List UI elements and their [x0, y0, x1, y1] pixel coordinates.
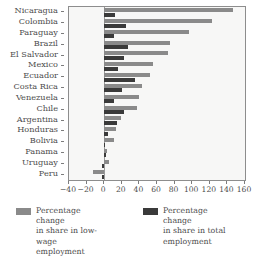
x-tick-mark — [174, 181, 175, 184]
y-tick-mark — [61, 174, 64, 175]
y-label-chile: Chile — [36, 104, 58, 113]
legend-label-low-wage: Percentage change in share in low-wage e… — [36, 206, 110, 257]
x-tick-label-40: 40 — [134, 185, 144, 194]
y-tick-mark — [61, 33, 64, 34]
x-tick-label-neg40: −40 — [60, 185, 76, 194]
y-label-paraguay: Paraguay — [19, 28, 58, 37]
y-label-bolivia: Bolivia — [30, 136, 58, 145]
y-label-mexico: Mexico — [28, 60, 58, 69]
bar-honduras-low-wage — [104, 127, 115, 131]
y-tick-mark — [61, 44, 64, 45]
legend-label-total-line1: Percentage change — [163, 206, 208, 225]
bar-paraguay-low-wage — [104, 30, 188, 34]
bar-argentina-total — [104, 121, 117, 125]
legend-label-total-line2: in share in total — [163, 226, 226, 235]
bar-mexico-total — [104, 67, 118, 71]
y-tick-mark — [61, 76, 64, 77]
y-tick-mark — [61, 141, 64, 142]
x-tick-mark — [103, 181, 104, 184]
legend-swatch-total-icon — [143, 208, 158, 215]
x-tick-mark — [138, 181, 139, 184]
x-tick-mark — [86, 181, 87, 184]
bar-colombia-total — [104, 24, 126, 28]
x-tick-mark — [244, 181, 245, 184]
y-tick-mark — [61, 109, 64, 110]
bar-uruguay-low-wage — [104, 160, 109, 164]
y-label-panama: Panama — [25, 147, 58, 156]
bar-mexico-low-wage — [104, 62, 153, 66]
x-tick-label-60: 60 — [151, 185, 161, 194]
bar-panama-total — [104, 153, 106, 157]
bar-nicaragua-low-wage — [104, 8, 232, 12]
y-tick-mark — [61, 120, 64, 121]
bar-honduras-total — [104, 132, 108, 136]
x-tick-mark — [191, 181, 192, 184]
y-label-colombia: Colombia — [19, 17, 58, 26]
legend-entry-total: Percentage change in share in total empl… — [143, 206, 237, 247]
bar-nicaragua-total — [104, 13, 115, 17]
x-tick-mark — [121, 181, 122, 184]
y-axis-category-labels: NicaraguaColombiaParaguayBrazilEl Salvad… — [0, 6, 64, 181]
y-tick-mark — [61, 55, 64, 56]
chart-legend: Percentage change in share in low-wage e… — [0, 206, 257, 247]
x-tick-label-160: 160 — [237, 185, 252, 194]
y-tick-mark — [61, 65, 64, 66]
y-tick-mark — [61, 98, 64, 99]
bar-panama-low-wage — [104, 149, 107, 153]
bar-colombia-low-wage — [104, 19, 211, 23]
legend-label-total: Percentage change in share in total empl… — [163, 206, 237, 247]
y-label-venezuela: Venezuela — [16, 93, 58, 102]
legend-swatch-low-wage-icon — [16, 208, 31, 215]
y-label-peru: Peru — [39, 169, 58, 178]
x-tick-mark — [226, 181, 227, 184]
x-tick-mark — [68, 181, 69, 184]
bar-ecuador-low-wage — [104, 73, 150, 77]
bar-el-salvador-low-wage — [104, 51, 168, 55]
bar-el-salvador-total — [104, 56, 123, 60]
y-label-ecuador: Ecuador — [23, 71, 58, 80]
x-tick-mark — [156, 181, 157, 184]
y-label-el-salvador: El Salvador — [10, 50, 58, 59]
y-tick-mark — [61, 152, 64, 153]
bar-chile-total — [104, 110, 123, 114]
bar-bolivia-total — [104, 143, 105, 147]
bar-costa-rica-total — [104, 88, 122, 92]
bar-argentina-low-wage — [104, 116, 121, 120]
y-tick-mark — [61, 11, 64, 12]
x-tick-label-140: 140 — [219, 185, 234, 194]
bar-paraguay-total — [104, 34, 114, 38]
y-tick-mark — [61, 87, 64, 88]
x-tick-mark — [209, 181, 210, 184]
y-tick-mark — [61, 163, 64, 164]
legend-label-total-line3: employment — [163, 237, 212, 246]
bar-bolivia-low-wage — [104, 138, 114, 142]
legend-entry-low-wage: Percentage change in share in low-wage e… — [16, 206, 110, 257]
legend-label-low-wage-line3: employment — [36, 247, 85, 256]
legend-label-low-wage-line1: Percentage change — [36, 206, 81, 225]
bar-peru-low-wage — [93, 170, 104, 174]
bar-brazil-total — [104, 45, 128, 49]
x-tick-label-0: 0 — [101, 185, 106, 194]
bar-venezuela-total — [104, 99, 114, 103]
bar-chile-low-wage — [104, 106, 137, 110]
bar-brazil-low-wage — [104, 41, 170, 45]
x-tick-label-neg20: −20 — [78, 185, 94, 194]
plot-area — [68, 6, 246, 181]
x-tick-label-100: 100 — [184, 185, 199, 194]
x-tick-label-80: 80 — [169, 185, 179, 194]
bar-uruguay-total — [102, 164, 105, 168]
y-tick-mark — [61, 130, 64, 131]
bar-ecuador-total — [104, 78, 135, 82]
x-tick-label-120: 120 — [202, 185, 217, 194]
y-label-brazil: Brazil — [34, 39, 58, 48]
y-label-uruguay: Uruguay — [22, 158, 58, 167]
y-label-honduras: Honduras — [17, 125, 58, 134]
legend-label-low-wage-line2: in share in low-wage — [36, 226, 97, 245]
bar-venezuela-low-wage — [104, 95, 139, 99]
y-label-costa-rica: Costa Rica — [14, 82, 58, 91]
bar-peru-total — [102, 175, 104, 179]
y-label-nicaragua: Nicaragua — [15, 6, 58, 15]
x-tick-label-20: 20 — [116, 185, 126, 194]
y-tick-mark — [61, 22, 64, 23]
